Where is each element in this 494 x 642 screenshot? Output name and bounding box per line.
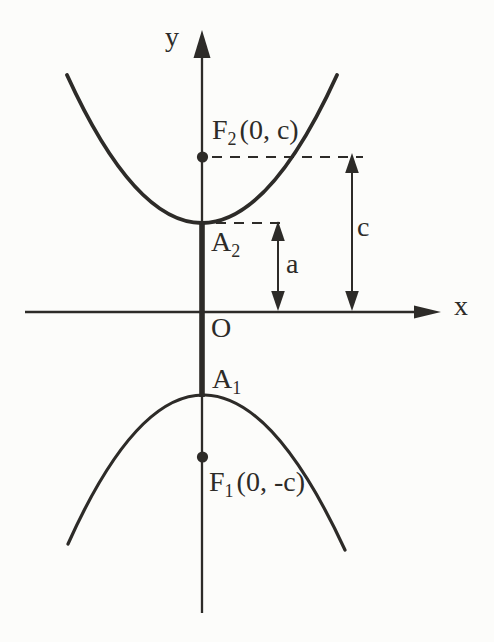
distance-c-label: c xyxy=(357,213,369,241)
vertex-upper-letter: A xyxy=(211,226,231,257)
measure-arrow-a xyxy=(271,221,285,311)
focus-lower-letter: F xyxy=(209,466,225,497)
vertex-upper-label: A2 xyxy=(211,228,240,256)
hyperbola-figure: y x O F2(0, c) A2 A1 F1(0, -c) a c xyxy=(0,0,494,642)
focus-upper-coordinates: (0, c) xyxy=(240,114,299,145)
origin-label: O xyxy=(211,314,231,342)
vertex-lower-letter: A xyxy=(212,363,232,394)
y-axis-label: y xyxy=(165,23,179,51)
focus-lower-subscript: 1 xyxy=(225,481,234,501)
vertex-lower-subscript: 1 xyxy=(232,378,241,398)
x-axis-label: x xyxy=(454,292,468,320)
vertex-upper-subscript: 2 xyxy=(231,241,240,261)
vertex-lower-label: A1 xyxy=(212,365,241,393)
figure-canvas xyxy=(0,0,494,642)
arrow-c-bottom-arrowhead-icon xyxy=(345,291,359,311)
x-axis-arrowhead-icon xyxy=(414,306,441,319)
focus-lower-label: F1(0, -c) xyxy=(209,468,305,496)
arrow-a-bottom-arrowhead-icon xyxy=(271,291,285,311)
focus-upper-letter: F xyxy=(212,114,228,145)
focus-lower-dot xyxy=(197,451,208,462)
focus-lower-coordinates: (0, -c) xyxy=(237,466,305,497)
y-axis-arrowhead-icon xyxy=(194,30,211,58)
focus-upper-subscript: 2 xyxy=(228,129,237,149)
focus-upper-label: F2(0, c) xyxy=(212,116,299,144)
distance-a-label: a xyxy=(286,250,298,278)
focus-upper-dot xyxy=(197,151,208,162)
